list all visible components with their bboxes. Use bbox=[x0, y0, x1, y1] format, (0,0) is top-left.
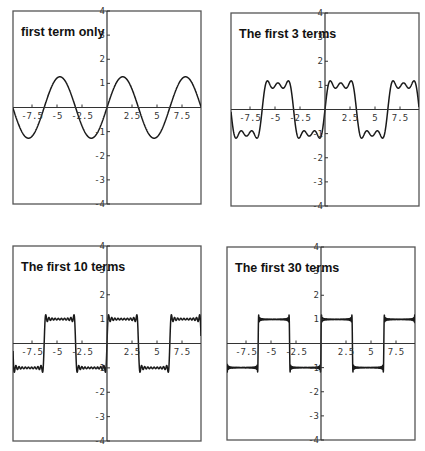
x-tick-label: 2.5 bbox=[124, 347, 140, 357]
y-tick-label: -4 bbox=[94, 436, 105, 446]
x-tick-label: 5 bbox=[154, 111, 159, 121]
x-tick-label: -5 bbox=[266, 347, 277, 357]
y-tick-label: 4 bbox=[100, 241, 105, 251]
x-tick-label: 5 bbox=[368, 347, 373, 357]
chart-title: The first 3 terms bbox=[239, 27, 336, 41]
chart-title: first term only bbox=[21, 25, 104, 39]
x-tick-label: 7.5 bbox=[174, 111, 190, 121]
chart-svg: -7.5-5-2.52.557.5-4-3-2-11234The first 3… bbox=[227, 247, 415, 440]
chart-panel-3-terms: -7.5-5-2.52.557.5-4-3-2-11234The first 3… bbox=[231, 13, 419, 206]
x-tick-label: 7.5 bbox=[392, 113, 408, 123]
y-tick-label: -3 bbox=[312, 177, 323, 187]
x-tick-label: 7.5 bbox=[388, 347, 404, 357]
y-tick-label: 4 bbox=[100, 6, 105, 16]
x-tick-label: -5 bbox=[52, 347, 63, 357]
x-tick-label: 5 bbox=[154, 347, 159, 357]
x-tick-label: -5 bbox=[52, 111, 63, 121]
x-tick-label: 7.5 bbox=[174, 347, 190, 357]
chart-panel-30-terms: -7.5-5-2.52.557.5-4-3-2-11234The first 3… bbox=[227, 247, 415, 440]
y-tick-label: 1 bbox=[314, 314, 319, 324]
y-tick-label: -3 bbox=[308, 411, 319, 421]
x-tick-label: 2.5 bbox=[124, 111, 140, 121]
y-tick-label: -1 bbox=[94, 363, 105, 373]
x-tick-label: 5 bbox=[372, 113, 377, 123]
y-tick-label: 2 bbox=[100, 290, 105, 300]
y-tick-label: 1 bbox=[318, 80, 323, 90]
x-tick-label: -7.5 bbox=[235, 347, 257, 357]
x-tick-label: 2.5 bbox=[338, 347, 354, 357]
y-tick-label: -1 bbox=[312, 129, 323, 139]
y-tick-label: -4 bbox=[312, 201, 323, 211]
x-tick-label: -2.5 bbox=[71, 347, 93, 357]
x-tick-label: -2.5 bbox=[285, 347, 307, 357]
chart-svg: -7.5-5-2.52.557.5-4-3-2-11234The first 1… bbox=[13, 246, 201, 441]
y-tick-label: -2 bbox=[94, 151, 105, 161]
y-tick-label: 2 bbox=[100, 54, 105, 64]
y-tick-label: -4 bbox=[308, 435, 319, 445]
chart-panel-1: -7.5-5-2.52.557.5-4-3-2-11234first term … bbox=[13, 11, 201, 204]
y-tick-label: -3 bbox=[94, 175, 105, 185]
chart-panel-10-terms: -7.5-5-2.52.557.5-4-3-2-11234The first 1… bbox=[13, 246, 201, 441]
y-tick-label: 2 bbox=[314, 290, 319, 300]
y-tick-label: -2 bbox=[312, 153, 323, 163]
y-tick-label: -4 bbox=[94, 199, 105, 209]
x-tick-label: -7.5 bbox=[21, 347, 43, 357]
x-tick-label: -7.5 bbox=[239, 113, 261, 123]
y-tick-label: 2 bbox=[318, 56, 323, 66]
x-tick-label: -5 bbox=[270, 113, 281, 123]
y-tick-label: -2 bbox=[94, 387, 105, 397]
y-tick-label: 1 bbox=[100, 78, 105, 88]
x-tick-label: -7.5 bbox=[21, 111, 43, 121]
chart-svg: -7.5-5-2.52.557.5-4-3-2-11234first term … bbox=[13, 11, 201, 204]
x-tick-label: -2.5 bbox=[71, 111, 93, 121]
y-tick-label: -2 bbox=[308, 387, 319, 397]
y-tick-label: -1 bbox=[94, 127, 105, 137]
chart-title: The first 30 terms bbox=[235, 261, 339, 275]
y-tick-label: 4 bbox=[314, 242, 319, 252]
y-tick-label: -1 bbox=[308, 363, 319, 373]
y-tick-label: 1 bbox=[100, 314, 105, 324]
x-tick-label: -2.5 bbox=[289, 113, 311, 123]
chart-title: The first 10 terms bbox=[21, 260, 125, 274]
y-tick-label: -3 bbox=[94, 412, 105, 422]
x-tick-label: 2.5 bbox=[342, 113, 358, 123]
y-tick-label: 4 bbox=[318, 8, 323, 18]
chart-svg: -7.5-5-2.52.557.5-4-3-2-11234The first 3… bbox=[231, 13, 419, 206]
